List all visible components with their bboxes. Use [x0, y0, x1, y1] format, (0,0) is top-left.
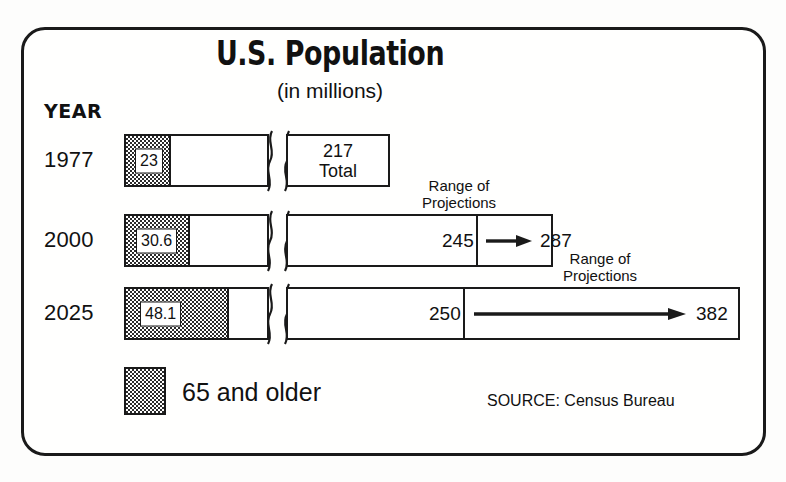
elderly-value-2025: 48.1 [140, 301, 181, 326]
range-label-2000-line2: Projections [404, 195, 514, 212]
bar-left-2025: 48.1 [124, 287, 269, 340]
chart-figure: U.S. Population (in millions) YEAR 1977 … [0, 0, 786, 482]
total-word-1977: Total [288, 161, 388, 181]
projection-high-2025: 382 [696, 303, 728, 325]
row-label-2025: 2025 [44, 300, 94, 326]
row-label-2000: 2000 [44, 227, 94, 253]
elderly-value-1977: 23 [135, 148, 163, 173]
page-title: U.S. Population [40, 36, 621, 70]
row-label-1977: 1977 [44, 147, 94, 173]
range-label-2000: Range of Projections [404, 178, 514, 212]
total-value-1977: 217 [288, 140, 388, 160]
projection-arrow-2025 [474, 308, 686, 320]
bar-right-2025: 250 382 [286, 287, 740, 340]
projection-high-2000: 287 [540, 230, 572, 252]
projection-arrow-2000 [486, 235, 532, 247]
range-label-2000-line1: Range of [404, 178, 514, 195]
projection-low-2025: 250 [429, 303, 461, 325]
range-label-2025-line2: Projections [545, 268, 655, 285]
range-label-2025: Range of Projections [545, 251, 655, 285]
chart-subtitle: (in millions) [0, 80, 660, 101]
range-label-2025-line1: Range of [545, 251, 655, 268]
legend-label-65-and-older: 65 and older [182, 378, 321, 407]
legend-swatch-65-and-older [124, 367, 166, 415]
bar-right-2000: 245 287 [286, 214, 553, 267]
projection-divider-2025 [463, 289, 465, 338]
bar-left-2000: 30.6 [124, 214, 269, 267]
elderly-value-2000: 30.6 [136, 228, 177, 253]
year-axis-header: YEAR [44, 100, 102, 122]
source-note: SOURCE: Census Bureau [487, 392, 675, 410]
bar-right-1977: 217 Total [286, 134, 390, 187]
projection-divider-2000 [476, 216, 478, 265]
projection-low-2000: 245 [442, 230, 474, 252]
bar-left-1977: 23 [124, 134, 269, 187]
total-annotation-1977: 217 Total [288, 140, 388, 180]
